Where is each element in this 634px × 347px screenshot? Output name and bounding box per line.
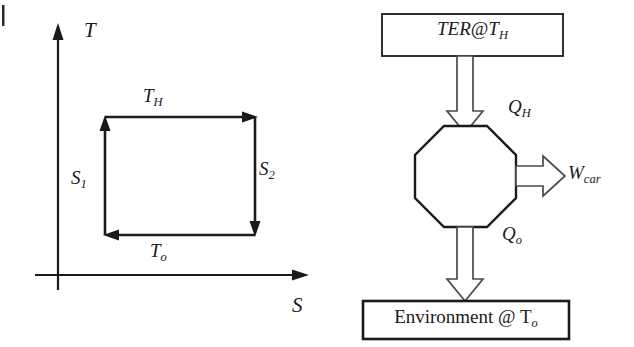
figure-root: T S TH To S1 S2 TER@TH Environment @ To … <box>0 0 634 347</box>
scan-artifact-mark <box>2 5 5 26</box>
cycle-label-s1: S1 <box>71 168 87 190</box>
cycle-label-th-subscript: H <box>154 95 163 109</box>
heat-input-arrow <box>447 56 483 133</box>
carnot-cycle-path <box>100 112 261 241</box>
ts-axes <box>35 23 309 290</box>
work-output-symbol: W <box>568 162 584 183</box>
cycle-label-s1-symbol: S <box>71 167 81 188</box>
cycle-label-s2-subscript: 2 <box>269 168 275 182</box>
heat-input-label: QH <box>508 97 531 119</box>
t-axis-arrowhead <box>53 23 64 40</box>
heat-input-subscript: H <box>522 106 531 120</box>
environment-sink-box-text: Environment @ T <box>394 306 531 327</box>
environment-sink-box-label: Environment @ To <box>366 306 566 331</box>
s-axis-arrowhead <box>292 270 309 281</box>
heat-input-symbol: Q <box>508 96 522 117</box>
heat-rejected-symbol: Q <box>502 223 516 244</box>
work-output-label: Wcar <box>568 163 601 185</box>
cycle-label-to-symbol: T <box>150 240 161 261</box>
heat-rejected-arrow <box>447 227 483 301</box>
heat-rejected-label: Qo <box>502 224 522 246</box>
work-output-arrow <box>516 156 565 196</box>
ter-source-box-text: TER@T <box>437 18 499 39</box>
ter-source-box-subscript: H <box>499 28 508 42</box>
ts-y-axis-label: T <box>84 20 96 41</box>
cycle-label-s2: S2 <box>259 159 275 181</box>
cycle-label-th: TH <box>143 86 163 108</box>
cycle-label-to-subscript: o <box>161 250 167 264</box>
environment-sink-box-subscript: o <box>532 316 538 330</box>
ts-x-axis-label: S <box>292 295 303 316</box>
work-output-subscript: car <box>584 172 601 186</box>
cycle-label-s1-subscript: 1 <box>81 177 87 191</box>
heat-rejected-subscript: o <box>516 233 522 247</box>
cycle-label-s2-symbol: S <box>259 158 269 179</box>
figure-canvas <box>0 0 634 347</box>
heat-engine-octagon <box>415 126 516 227</box>
cycle-label-th-symbol: T <box>143 85 154 106</box>
cycle-label-to: To <box>150 241 167 263</box>
ter-source-box-label: TER@TH <box>385 18 560 43</box>
